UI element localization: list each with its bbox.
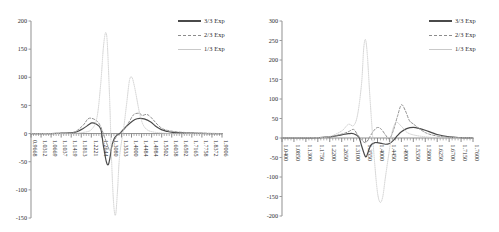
x-tick-label: 1.7150 — [462, 145, 468, 162]
y-tick-label: 200 — [18, 17, 27, 24]
legend-item-label: 2/3 Exp — [455, 32, 476, 38]
chart-panel-right: 300250200150100500-50-100-150-2001.04001… — [249, 0, 499, 232]
legend-left: 3/3 Exp 2/3 Exp 1/3 Exp — [178, 14, 225, 56]
x-tick-label: 1.6700 — [450, 145, 456, 162]
x-tick-label: 1.0312 — [42, 140, 48, 157]
y-tick-label: -100 — [16, 186, 27, 193]
x-tick-label: 1.5502 — [163, 140, 169, 157]
x-tick-label: 1.6592 — [183, 140, 189, 157]
y-tick-label: 150 — [269, 76, 278, 83]
x-tick-label: 1.1813 — [82, 140, 88, 157]
x-tick-label: 1.1037 — [62, 140, 68, 157]
legend-item-label: 1/3 Exp — [455, 46, 476, 52]
y-tick-label: 100 — [269, 95, 278, 102]
y-tick-label: -50 — [270, 154, 278, 161]
y-tick-label: 50 — [272, 115, 278, 122]
x-tick-label: 1.4900 — [403, 145, 409, 162]
legend-item-label: 3/3 Exp — [204, 18, 225, 24]
legend-item: 3/3 Exp — [178, 14, 225, 28]
series-line-light — [282, 39, 473, 202]
y-tick-label: 150 — [18, 45, 27, 52]
y-tick-label: 200 — [269, 56, 278, 63]
x-tick-label: 1.3533 — [123, 140, 129, 157]
y-tick-label: 300 — [269, 17, 278, 24]
figure-container: 200150100500-50-100-1500.96681.03121.066… — [0, 0, 499, 232]
legend-item: 1/3 Exp — [429, 42, 476, 56]
legend-item: 2/3 Exp — [429, 28, 476, 42]
y-tick-label: -100 — [267, 173, 278, 180]
x-tick-label: 1.5350 — [415, 145, 421, 162]
x-tick-label: 1.4000 — [379, 145, 385, 162]
x-tick-label: 1.8372 — [213, 140, 219, 157]
x-tick-label: 1.2650 — [343, 145, 349, 162]
y-tick-label: 0 — [24, 130, 27, 137]
y-tick-label: 50 — [21, 102, 27, 109]
x-tick-label: 1.7600 — [474, 145, 480, 162]
line-dashed-icon — [178, 35, 201, 36]
line-dashed-icon — [429, 35, 452, 36]
y-tick-label: 250 — [269, 37, 278, 44]
x-tick-label: 1.1419 — [72, 140, 78, 157]
x-tick-label: 1.6038 — [173, 140, 179, 157]
x-tick-label: 1.1750 — [319, 145, 325, 162]
y-tick-label: -200 — [267, 212, 278, 219]
legend-item: 1/3 Exp — [178, 42, 225, 56]
x-tick-label: 1.4000 — [133, 140, 139, 157]
x-tick-label: 1.1300 — [307, 145, 313, 162]
y-tick-label: 100 — [18, 73, 27, 80]
y-tick-label: -150 — [16, 214, 27, 221]
x-tick-label: 1.7165 — [193, 140, 199, 157]
series-line-light — [31, 32, 222, 215]
series-line-dashed — [282, 105, 473, 143]
x-tick-label: 1.0850 — [295, 145, 301, 162]
x-tick-label: 1.0669 — [52, 140, 58, 157]
legend-item-label: 1/3 Exp — [204, 46, 225, 52]
line-light-icon — [429, 49, 452, 50]
line-solid-icon — [178, 20, 201, 21]
y-tick-label: 0 — [275, 134, 278, 141]
chart-panel-left: 200150100500-50-100-1500.96681.03121.066… — [0, 0, 249, 232]
x-tick-label: 1.4484 — [143, 140, 149, 157]
legend-right: 3/3 Exp 2/3 Exp 1/3 Exp — [429, 14, 476, 56]
x-tick-label: 1.0400 — [283, 145, 289, 162]
legend-item: 2/3 Exp — [178, 28, 225, 42]
x-tick-label: 1.2221 — [93, 140, 99, 157]
x-tick-label: 1.9006 — [223, 140, 229, 157]
x-tick-label: 1.3100 — [355, 145, 361, 162]
x-tick-label: 1.7758 — [203, 140, 209, 157]
x-tick-label: 1.5800 — [426, 145, 432, 162]
legend-item-label: 2/3 Exp — [204, 32, 225, 38]
line-light-icon — [178, 49, 201, 50]
x-tick-label: 1.4984 — [153, 140, 159, 157]
x-tick-label: 1.6250 — [438, 145, 444, 162]
line-solid-icon — [429, 20, 452, 21]
legend-item: 3/3 Exp — [429, 14, 476, 28]
y-tick-label: -150 — [267, 193, 278, 200]
x-tick-label: 0.9668 — [32, 140, 38, 157]
y-tick-label: -50 — [19, 158, 27, 165]
x-tick-label: 1.2200 — [331, 145, 337, 162]
x-tick-label: 1.4450 — [391, 145, 397, 162]
legend-item-label: 3/3 Exp — [455, 18, 476, 24]
